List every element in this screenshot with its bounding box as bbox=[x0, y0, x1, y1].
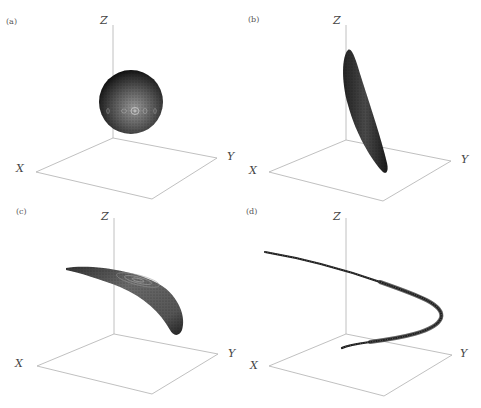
x-axis-label: X bbox=[248, 164, 258, 177]
z-axis-label: Z bbox=[99, 14, 108, 27]
panel-label: (b) bbox=[248, 15, 259, 24]
panel-b: (b) Z X Y bbox=[248, 14, 470, 201]
sphere-surface bbox=[99, 70, 163, 134]
xy-plane bbox=[269, 140, 451, 201]
panel-label: (c) bbox=[16, 207, 27, 216]
panel-label: (a) bbox=[6, 17, 17, 26]
panel-label: (d) bbox=[246, 207, 257, 216]
x-axis-label: X bbox=[249, 359, 259, 372]
x-axis-label: X bbox=[15, 162, 25, 175]
y-axis-label: Y bbox=[461, 153, 470, 166]
z-axis-label: Z bbox=[100, 210, 109, 223]
ellipsoid-surface bbox=[343, 50, 388, 173]
figure: (a) Z X Y (b) Z X Y (c) bbox=[0, 0, 481, 408]
y-axis-label: Y bbox=[460, 347, 469, 360]
panel-c: (c) Z X Y bbox=[14, 207, 237, 394]
xy-plane bbox=[37, 334, 218, 394]
z-axis-label: Z bbox=[332, 210, 341, 223]
xy-plane bbox=[36, 138, 217, 199]
x-axis-label: X bbox=[14, 357, 24, 370]
y-axis-label: Y bbox=[228, 347, 237, 360]
panel-a: (a) Z X Y bbox=[6, 14, 236, 199]
parabolic-ribbon bbox=[265, 252, 441, 348]
y-axis-label: Y bbox=[227, 150, 236, 163]
banana-surface bbox=[66, 267, 183, 335]
panel-d: (d) Z X Y bbox=[246, 207, 469, 396]
z-axis-label: Z bbox=[332, 14, 341, 27]
